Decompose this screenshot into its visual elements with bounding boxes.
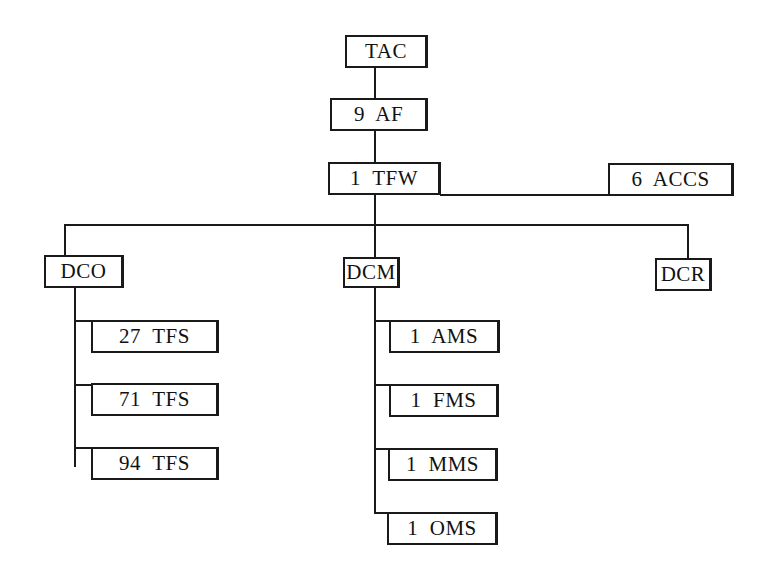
connector-dco-trunk	[74, 286, 76, 467]
connector-dco-94tfs	[74, 447, 92, 449]
connector-directorates-bus	[64, 224, 689, 226]
connector-1tfw-6accs	[440, 194, 608, 196]
node-dco: DCO	[44, 255, 124, 288]
node-1-fms: 1 FMS	[389, 384, 499, 417]
node-6-accs: 6 ACCS	[608, 163, 734, 196]
node-1-mms: 1 MMS	[388, 448, 498, 481]
node-71-tfs: 71 TFS	[91, 383, 219, 416]
node-27-tfs: 27 TFS	[91, 320, 219, 353]
connector-tac-9af	[374, 67, 376, 100]
connector-9af-1tfw	[374, 130, 376, 163]
node-1-tfw: 1 TFW	[328, 162, 441, 195]
node-1-ams: 1 AMS	[389, 320, 500, 353]
node-94-tfs: 94 TFS	[91, 447, 219, 480]
connector-dco-27tfs	[74, 320, 92, 322]
node-1-oms: 1 OMS	[387, 512, 498, 545]
connector-bus-dcr	[687, 224, 689, 260]
connector-dco-71tfs	[74, 384, 92, 386]
connector-dcm-1fms	[374, 384, 390, 386]
connector-1tfw-trunk	[374, 194, 376, 258]
node-dcr: DCR	[655, 258, 712, 291]
connector-dcm-1ams	[374, 320, 390, 322]
node-tac: TAC	[345, 35, 428, 68]
node-9-af: 9 AF	[330, 98, 428, 131]
connector-bus-dco	[64, 224, 66, 258]
node-dcm: DCM	[343, 257, 400, 288]
